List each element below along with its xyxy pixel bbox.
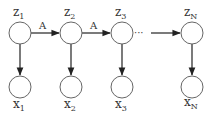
label-zN: zN (184, 5, 197, 21)
edge-label-a2: A (89, 20, 98, 31)
label-x1: x1 (13, 97, 25, 113)
label-z2: z2 (64, 5, 75, 21)
node-x3 (111, 76, 133, 98)
node-x1 (9, 76, 31, 98)
node-z1 (9, 22, 31, 44)
node-z3 (111, 22, 133, 44)
ellipsis: ··· (134, 27, 144, 38)
label-x3: x3 (115, 97, 127, 113)
node-zN (181, 22, 203, 44)
label-z3: z3 (115, 5, 126, 21)
node-z2 (60, 22, 82, 44)
label-z1: z1 (13, 5, 24, 21)
node-x2 (60, 76, 82, 98)
edge-label-a1: A (38, 20, 47, 31)
hmm-diagram: A A ··· z1 z2 z3 zN x1 x2 x3 xN (0, 0, 215, 116)
label-x2: x2 (64, 97, 76, 113)
